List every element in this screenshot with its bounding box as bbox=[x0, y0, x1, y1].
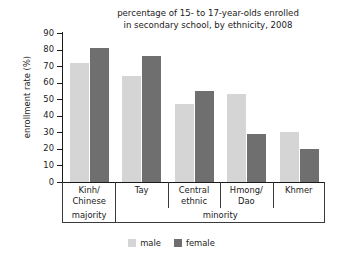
bar-male bbox=[227, 94, 246, 182]
legend-item-male[interactable]: male bbox=[128, 238, 161, 248]
legend-swatch-female bbox=[174, 239, 182, 247]
y-axis-tick-label: 70 bbox=[43, 61, 54, 71]
y-axis-title: enrollment rate (%) bbox=[22, 37, 32, 157]
category-label: Hmong/Dao bbox=[220, 182, 272, 208]
bar-group bbox=[115, 33, 167, 182]
bar-male bbox=[122, 76, 141, 182]
chart-legend: malefemale bbox=[0, 238, 343, 248]
bar-chart: percentage of 15- to 17-year-olds enroll… bbox=[0, 0, 343, 265]
y-axis-tick-label: 0 bbox=[49, 177, 54, 187]
category-cell-divider bbox=[115, 182, 116, 208]
category-label: Centralethnic bbox=[168, 182, 220, 208]
bar-female bbox=[247, 134, 266, 182]
y-axis-tick-label: 20 bbox=[43, 143, 54, 153]
category-label-line: Central bbox=[168, 185, 220, 196]
y-axis-tick-label: 80 bbox=[43, 44, 54, 54]
chart-title-line-2: in secondary school, by ethnicity, 2008 bbox=[88, 20, 328, 32]
category-label-line: Dao bbox=[220, 196, 272, 207]
bar-female bbox=[195, 91, 214, 182]
plot-area bbox=[63, 33, 325, 182]
bar-male bbox=[175, 104, 194, 182]
y-axis-tick-label: 30 bbox=[43, 127, 54, 137]
bar-male bbox=[70, 63, 89, 182]
chart-title-line-1: percentage of 15- to 17-year-olds enroll… bbox=[88, 8, 328, 20]
y-axis-tick-label: 10 bbox=[43, 160, 54, 170]
category-label-line: Kinh/ bbox=[63, 185, 115, 196]
bar-male bbox=[280, 132, 299, 182]
bar-female bbox=[90, 48, 109, 182]
category-cell-divider bbox=[220, 182, 221, 208]
group-divider bbox=[115, 208, 116, 223]
bar-group bbox=[63, 33, 115, 182]
bar-group bbox=[168, 33, 220, 182]
category-label-line: Hmong/ bbox=[220, 185, 272, 196]
category-label: Tay bbox=[115, 182, 167, 208]
category-label: Kinh/Chinese bbox=[63, 182, 115, 208]
group-label-minority: minority bbox=[115, 208, 325, 223]
category-label-line: ethnic bbox=[168, 196, 220, 207]
group-label-majority: majority bbox=[63, 208, 115, 223]
category-label-line: Chinese bbox=[63, 196, 115, 207]
category-cell-divider bbox=[168, 182, 169, 208]
bar-group bbox=[220, 33, 272, 182]
y-axis-tick-label: 60 bbox=[43, 77, 54, 87]
y-axis-tick-label: 40 bbox=[43, 110, 54, 120]
legend-label-male: male bbox=[140, 238, 161, 248]
category-label-table: Kinh/ChineseTayCentralethnicHmong/DaoKhm… bbox=[62, 182, 325, 223]
category-label: Khmer bbox=[273, 182, 325, 208]
y-axis-tick-label: 50 bbox=[43, 94, 54, 104]
chart-title: percentage of 15- to 17-year-olds enroll… bbox=[88, 8, 328, 31]
category-label-line: Khmer bbox=[273, 185, 325, 196]
legend-item-female[interactable]: female bbox=[174, 238, 215, 248]
category-cell-divider bbox=[273, 182, 274, 208]
bar-female bbox=[142, 56, 161, 182]
bar-group bbox=[273, 33, 325, 182]
bar-female bbox=[300, 149, 319, 182]
category-label-line: Tay bbox=[115, 185, 167, 196]
y-axis-tick-label: 90 bbox=[43, 28, 54, 38]
legend-swatch-male bbox=[128, 239, 136, 247]
legend-label-female: female bbox=[186, 238, 215, 248]
